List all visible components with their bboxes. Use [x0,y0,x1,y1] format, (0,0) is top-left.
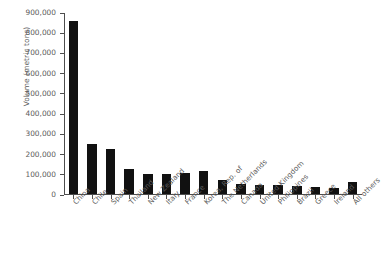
plot-area: 900,000800,000700,000600,000500,000400,0… [64,13,362,195]
y-axis-tick-label: 500,000 [0,89,56,98]
y-axis-tick-label: 0 [0,190,56,199]
y-axis-line [64,13,65,195]
y-axis-tick-label: 900,000 [0,8,56,17]
y-axis-tick-label: 300,000 [0,129,56,138]
y-axis-tick-label: 700,000 [0,48,56,57]
y-axis-tick-label: 200,000 [0,150,56,159]
y-axis-tick [60,114,64,115]
y-axis-tick [60,134,64,135]
y-axis-tick [60,174,64,175]
y-axis-tick-label: 100,000 [0,170,56,179]
y-axis-tick-label: 800,000 [0,28,56,37]
y-axis-tick-label: 400,000 [0,109,56,118]
y-axis-tick [60,154,64,155]
y-axis-tick [60,13,64,14]
bar [69,21,79,194]
x-axis-labels: ChinaChileSpainThailandNew ZealandItalyF… [64,200,371,261]
bar [87,144,97,194]
y-axis-tick [60,53,64,54]
y-axis-tick-label: 600,000 [0,69,56,78]
bar [106,149,116,194]
y-axis-tick [60,73,64,74]
y-axis-tick [60,33,64,34]
y-axis-tick [60,195,64,196]
y-axis-tick [60,93,64,94]
